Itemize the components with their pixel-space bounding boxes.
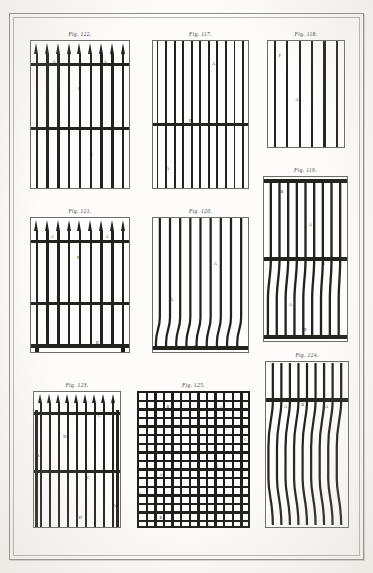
- right-stile: [116, 410, 119, 527]
- horizontal-rail: [31, 63, 129, 66]
- figure-drawing: BABAB: [263, 176, 348, 342]
- spear-tip-icon: [45, 220, 49, 231]
- horizontal-rail: [264, 257, 347, 261]
- serpentine-bar: [277, 363, 281, 525]
- figure-fig-120: Fig. 120. AAB: [152, 208, 249, 353]
- vertical-bar: [242, 41, 244, 188]
- serpentine-bar: [311, 363, 315, 525]
- vertical-bar: [323, 41, 325, 147]
- base-rail: [31, 344, 129, 348]
- horizontal-rail: [31, 240, 129, 243]
- spear-tip-icon: [99, 220, 103, 231]
- base-rail: [264, 335, 347, 339]
- vertical-bar: [182, 41, 184, 188]
- horizontal-rail: [31, 302, 129, 305]
- vertical-bar: [90, 54, 92, 188]
- spear-tip-icon: [83, 394, 87, 403]
- vertical-bar: [208, 41, 210, 188]
- horizontal-rail: [34, 412, 120, 415]
- vertical-bar: [274, 41, 276, 147]
- figure-label: Fig. 120.: [152, 208, 249, 214]
- spear-tip-icon: [56, 220, 60, 231]
- vertical-bar: [225, 41, 227, 188]
- vertical-bar: [40, 403, 42, 527]
- annotation-letter: B: [56, 296, 59, 300]
- spear-tip-icon: [110, 220, 114, 231]
- serpentine-bar: [294, 363, 298, 525]
- annotation-letter: D: [79, 516, 82, 520]
- figure-drawing: AABBB: [30, 217, 130, 353]
- vertical-bar: [85, 403, 87, 527]
- vertical-bar: [79, 54, 81, 188]
- spear-tip-icon: [101, 394, 105, 403]
- left-stile: [35, 410, 38, 527]
- vertical-bar: [191, 41, 193, 188]
- annotation-letter: B: [78, 87, 81, 91]
- serpentine-bar: [303, 363, 307, 525]
- spear-tip-icon: [121, 43, 125, 54]
- base-rail: [153, 346, 248, 350]
- figure-fig-124: Fig. 124. ABA: [265, 352, 349, 528]
- figure-drawing: AAB: [152, 217, 249, 353]
- vertical-bar: [46, 231, 48, 348]
- vertical-bar: [67, 403, 69, 527]
- annotation-letter: C: [139, 492, 142, 496]
- vertical-bar: [76, 403, 78, 527]
- base-foot: [35, 348, 39, 352]
- vertical-bar: [90, 231, 92, 348]
- serpentine-bar: [207, 218, 211, 350]
- annotation-letter: D: [63, 435, 66, 439]
- spear-tip-icon: [88, 220, 92, 231]
- vertical-bar: [36, 231, 38, 348]
- annotation-letter: B: [160, 516, 163, 520]
- vertical-bar: [57, 54, 59, 188]
- annotation-letter: B: [37, 454, 40, 458]
- annotation-letter: A: [113, 504, 116, 508]
- figure-label: Fig. 121.: [30, 208, 130, 214]
- vertical-bar: [58, 403, 60, 527]
- annotation-letter: A: [166, 167, 169, 171]
- serpentine-bar: [337, 363, 341, 525]
- spear-tip-icon: [56, 394, 60, 403]
- vertical-bar: [36, 54, 38, 188]
- annotation-letter: B: [194, 345, 197, 349]
- spear-tip-icon: [67, 43, 71, 54]
- engraving-plate: Fig. 122. AABB Fig. 117. ABA Fig. 118. F…: [0, 0, 373, 573]
- offset-serpentine-bars: [266, 362, 348, 527]
- annotation-letter: A: [104, 60, 107, 64]
- figure-drawing: ABA: [265, 361, 349, 528]
- spear-tip-icon: [121, 220, 125, 231]
- figure-label: Fig. 122.: [30, 31, 130, 37]
- annotation-letter: B: [281, 190, 284, 194]
- annotation-letter: A: [105, 235, 108, 239]
- annotation-letter: A: [53, 60, 56, 64]
- vertical-bar: [112, 403, 114, 527]
- annotation-letter: A: [170, 298, 173, 302]
- annotation-letter: B: [90, 153, 93, 157]
- serpentine-bar: [227, 218, 231, 350]
- annotation-letter: A: [219, 406, 222, 410]
- horizontal-rail: [34, 470, 120, 473]
- serpentine-bar: [186, 218, 190, 350]
- spear-tip-icon: [67, 220, 71, 231]
- annotation-letter: A: [309, 223, 312, 227]
- vertical-bar: [122, 54, 124, 188]
- top-rail: [264, 179, 347, 183]
- annotation-letter: A: [160, 473, 163, 477]
- spear-tip-icon: [77, 43, 81, 54]
- serpentine-bar: [197, 218, 201, 350]
- figure-label: Fig. 117.: [152, 31, 249, 37]
- annotation-letter: A: [289, 303, 292, 307]
- vertical-bar: [100, 54, 102, 188]
- annotation-letter: A: [325, 405, 328, 409]
- vertical-bar: [122, 231, 124, 348]
- figure-label: Fig. 125.: [137, 382, 250, 388]
- spear-tip-icon: [88, 43, 92, 54]
- figure-fig-123: Fig. 123. CDBCAD: [33, 382, 121, 528]
- spear-tip-icon: [77, 220, 81, 231]
- annotation-letter: C: [98, 414, 101, 418]
- base-foot: [121, 348, 125, 352]
- vertical-bar: [199, 41, 201, 188]
- annotation-letter: C: [244, 438, 247, 442]
- figure-drawing: ABA: [152, 40, 249, 189]
